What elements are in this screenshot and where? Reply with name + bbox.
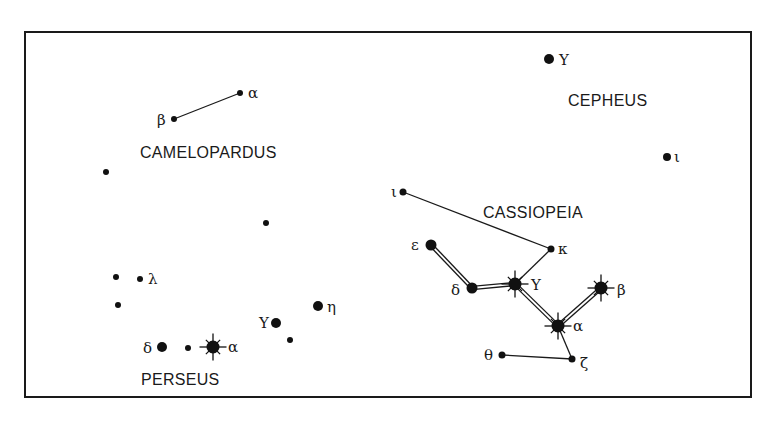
star-per-eta	[313, 301, 323, 311]
star-cep-gamma	[544, 54, 554, 64]
star-cas-kappa	[548, 246, 555, 253]
star-label-per-eta: η	[327, 298, 336, 316]
star-per-field-5	[185, 345, 191, 351]
label-camelopardus: CAMELOPARDUS	[140, 144, 277, 161]
star-label-cas-epsilon: ε	[411, 236, 419, 254]
star-per-field-3	[115, 302, 121, 308]
label-cassiopeia: CASSIOPEIA	[483, 204, 583, 221]
star-label-cep-gamma: Y	[558, 51, 570, 69]
star-cas-delta	[467, 283, 478, 294]
star-per-gamma	[271, 318, 281, 328]
chart-frame	[25, 32, 751, 397]
star-label-per-delta: δ	[143, 339, 152, 357]
star-label-cas-kappa: κ	[558, 240, 568, 258]
star-label-cas-iota: ι	[391, 183, 397, 201]
star-label-per-lambda: λ	[148, 270, 158, 288]
star-label-per-alpha: α	[228, 338, 238, 356]
star-cep-iota	[663, 153, 671, 161]
star-label-cas-gamma: Y	[530, 276, 542, 294]
star-label-cas-theta: θ	[484, 346, 493, 364]
star-label-cep-iota: ι	[674, 148, 680, 166]
star-label-cas-beta: β	[617, 281, 626, 299]
star-label-per-gamma: Y	[258, 314, 270, 332]
star-per-delta	[157, 342, 167, 352]
star-cas-iota	[400, 189, 407, 196]
star-label-cas-zeta: ζ	[580, 354, 588, 372]
label-cepheus: CEPHEUS	[568, 92, 647, 109]
star-label-cam-beta: β	[157, 111, 166, 129]
star-label-cam-alpha: α	[248, 84, 258, 102]
star-label-cas-alpha: α	[573, 317, 583, 335]
line-cam-beta-cam-alpha	[174, 93, 240, 119]
star-field-2	[263, 220, 269, 226]
star-field-1	[103, 169, 109, 175]
star-cas-zeta	[569, 356, 576, 363]
star-cam-beta	[171, 116, 177, 122]
star-cas-theta	[499, 352, 506, 359]
line-cas-zeta-cas-theta	[502, 355, 572, 359]
star-cas-epsilon	[426, 240, 437, 251]
star-cam-alpha	[237, 90, 243, 96]
star-per-lambda	[137, 276, 143, 282]
star-label-cas-delta: δ	[451, 281, 460, 299]
star-per-lambda-a	[113, 274, 119, 280]
star-chart: αβYιικεδYβαζθληYδα CAMELOPARDUS CEPHEUS …	[0, 0, 781, 422]
star-per-field-4	[287, 337, 293, 343]
constellation-lines	[174, 93, 601, 359]
label-perseus: PERSEUS	[141, 371, 220, 388]
star-per-alpha	[200, 334, 227, 361]
